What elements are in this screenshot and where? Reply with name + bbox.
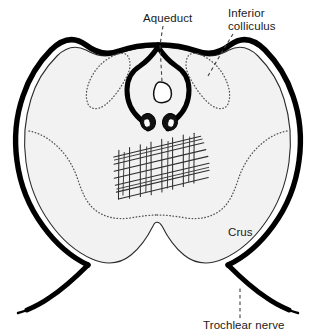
aqueduct-group (154, 82, 172, 103)
trochlear-nerve-fiber-left (27, 265, 88, 310)
aqueduct-lumen (154, 82, 172, 103)
midbrain-cross-section-svg: Aqueduct Inferior colliculus Crus Trochl… (0, 0, 315, 333)
anatomical-figure: Aqueduct Inferior colliculus Crus Trochl… (0, 0, 315, 333)
label-aqueduct: Aqueduct (143, 12, 193, 24)
label-trochlear-nerve: Trochlear nerve (203, 319, 285, 331)
label-crus: Crus (228, 226, 253, 238)
label-inferior-colliculus-line1: Inferior (228, 7, 265, 19)
trochlear-nerve-fiber-right (228, 265, 289, 310)
label-inferior-colliculus-line2: colliculus (228, 20, 276, 32)
trochlear-nerve-fibers-group (18, 265, 298, 313)
